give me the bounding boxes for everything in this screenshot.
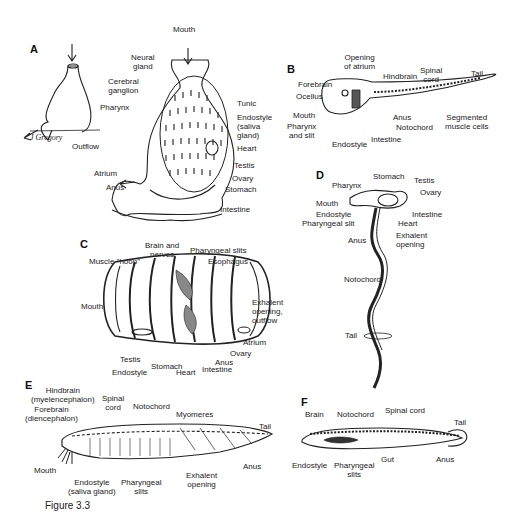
label-a-stomach: Stomach — [225, 185, 257, 194]
label-d-pharynx: Pharynx — [332, 181, 361, 190]
artist-signature: J Gregory — [30, 133, 62, 142]
label-b-forebrain: Forebrain — [298, 80, 332, 89]
panel-e-amphioxus — [58, 424, 272, 464]
panel-a-ascidian — [112, 48, 234, 221]
label-a-cerebral-ganglion: Cerebral ganglion — [108, 77, 139, 95]
label-b-notochord: Notochord — [396, 123, 433, 132]
label-d-heart: Heart — [398, 219, 418, 228]
label-e-myomeres: Myomeres — [176, 410, 213, 419]
label-f-brain: Brain — [305, 410, 324, 419]
label-f-endostyle: Endostyle — [292, 461, 327, 470]
label-b-ocellus: Ocellus — [296, 92, 323, 101]
label-d-anus: Anus — [348, 236, 366, 245]
label-b-intestine: Intestine — [371, 135, 401, 144]
panel-a-sketch — [24, 44, 100, 140]
panel-letter-a: A — [30, 43, 38, 55]
panel-letter-d: D — [316, 169, 324, 181]
label-b-anus: Anus — [393, 113, 411, 122]
label-e-hindbrain: Hindbrain (myelencephalon) — [31, 386, 95, 404]
label-b-segmented-muscle-cells: Segmented muscle cells — [445, 113, 489, 131]
label-a-tunic: Tunic — [237, 99, 256, 108]
panel-letter-f: F — [301, 396, 308, 408]
label-e-tail: Tail — [259, 422, 271, 431]
label-e-notochord: Notochord — [133, 402, 170, 411]
label-f-notochord: Notochord — [337, 410, 374, 419]
label-d-testis: Testis — [414, 176, 434, 185]
label-f-gut: Gut — [381, 455, 394, 464]
label-e-spinal-cord: Spinal cord — [102, 394, 124, 412]
label-a-pharynx: Pharynx — [100, 103, 129, 112]
panel-letter-b: B — [287, 63, 295, 75]
label-a-neural-gland: Neural gland — [131, 53, 155, 71]
label-e-endostyle: Endostyle (saliva gland) — [68, 478, 116, 496]
label-a-intestine: Intestine — [220, 205, 250, 214]
panel-letter-c: C — [80, 238, 88, 250]
label-e-pharyngeal-slits: Pharyngeal slits — [121, 478, 161, 496]
label-b-tail: Tail — [471, 69, 483, 78]
label-a-endostyle: Endostyle (saliva gland) — [237, 113, 272, 140]
label-d-intestine: Intestine — [412, 210, 442, 219]
label-a-heart: Heart — [237, 144, 257, 153]
label-b-endostyle: Endostyle — [332, 140, 367, 149]
label-c-endostyle: Endostyle — [112, 368, 147, 377]
label-a-mouth: Mouth — [173, 25, 195, 34]
label-c-brain-and-nerves: Brain and nerves — [145, 241, 179, 259]
label-a-anus: Anus — [106, 183, 124, 192]
label-a-outflow: Outflow — [72, 142, 99, 151]
label-d-stomach: Stomach — [373, 172, 405, 181]
label-c-exhalent-opening: Exhalent opening, outflow — [252, 298, 283, 325]
label-d-endostyle: Endostyle — [316, 210, 351, 219]
label-c-atrium: Atrium — [243, 338, 266, 347]
label-c-testis: Testis — [120, 355, 140, 364]
panel-c-salp — [104, 254, 270, 345]
label-b-spinal-cord: Spinal cord — [420, 66, 442, 84]
label-d-tail: Tail — [345, 331, 357, 340]
label-e-exhalent-opening: Exhalent opening — [186, 471, 217, 489]
label-f-spinal-cord: Spinal cord — [385, 406, 425, 415]
panel-f-lamprey — [302, 428, 467, 449]
label-d-notochord: Notochord — [344, 275, 381, 284]
label-c-intestine: Intestine — [202, 365, 232, 374]
label-b-hindbrain: Hindbrain — [383, 72, 417, 81]
label-d-ovary: Ovary — [420, 188, 441, 197]
label-e-forebrain: Forebrain (diencephalon) — [25, 405, 78, 423]
label-f-tail: Tail — [454, 418, 466, 427]
figure-caption: Figure 3.3 — [45, 500, 90, 511]
label-b-opening-of-atrium: Opening of atrium — [344, 53, 375, 71]
label-a-ovary: Ovary — [232, 174, 253, 183]
label-d-pharyngeal-slit: Pharyngeal slit — [302, 219, 354, 228]
label-b-mouth: Mouth — [293, 111, 315, 120]
label-c-muscle-hoop: Muscle "hoop" — [89, 257, 140, 266]
label-f-anus: Anus — [436, 455, 454, 464]
label-a-atrium: Atrium — [94, 169, 117, 178]
label-b-pharynx-and-slit: Pharynx and slit — [287, 122, 316, 140]
label-c-heart: Heart — [176, 368, 196, 377]
label-d-exhalent-opening: Exhalent opening — [396, 231, 427, 249]
label-c-esophagus: Esophagus — [208, 257, 248, 266]
label-a-testis: Testis — [234, 161, 254, 170]
label-f-pharyngeal-slits: Pharyngeal slits — [334, 461, 374, 479]
label-c-pharyngeal-slits: Pharyngeal slits — [190, 246, 246, 255]
label-d-mouth: Mouth — [316, 199, 338, 208]
label-e-mouth: Mouth — [34, 466, 56, 475]
label-c-ovary: Ovary — [230, 349, 251, 358]
label-e-anus: Anus — [243, 462, 261, 471]
label-c-mouth: Mouth — [81, 302, 103, 311]
